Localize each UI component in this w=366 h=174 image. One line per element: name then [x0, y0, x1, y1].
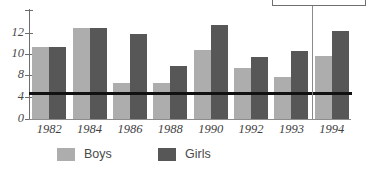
- legend-label-boys: Boys: [84, 148, 112, 161]
- legend-swatch-girls: [158, 148, 176, 161]
- y-axis-label-10: 10: [0, 47, 24, 60]
- bar-girls-1986: [130, 34, 147, 120]
- bar-girls-1994: [332, 31, 349, 120]
- x-axis-label-1993: 1993: [271, 122, 311, 138]
- bar-girls-1992: [251, 57, 268, 120]
- x-axis-label-1994: 1994: [312, 122, 352, 138]
- y-axis-label-0: 0: [0, 112, 24, 125]
- bar-boys-1990: [194, 50, 211, 120]
- x-axis-label-1988: 1988: [150, 122, 190, 138]
- legend-swatch-boys: [57, 148, 75, 161]
- y-axis-label-8: 8: [0, 68, 24, 81]
- bar-girls-1984: [90, 28, 107, 120]
- x-axis-label-1984: 1984: [69, 122, 109, 138]
- x-axis-label-1992: 1992: [231, 122, 271, 138]
- y-axis-label-4: 4: [0, 90, 24, 103]
- callout-box: [272, 0, 366, 6]
- callout-leader-line: [312, 2, 313, 119]
- x-axis-label-1990: 1990: [191, 122, 231, 138]
- legend-label-girls: Girls: [185, 148, 211, 161]
- legend-item-girls: Girls: [158, 145, 211, 163]
- legend-item-boys: Boys: [57, 145, 112, 163]
- x-axis-line: [29, 119, 351, 120]
- y-axis-label-text: 12: [12, 25, 25, 39]
- x-axis-label-1986: 1986: [110, 122, 150, 138]
- y-axis-label-text: 10: [12, 46, 25, 60]
- bar-boys-1982: [32, 47, 49, 120]
- reference-line: [29, 92, 352, 95]
- bar-boys-1988: [153, 83, 170, 120]
- bar-girls-1982: [49, 47, 66, 120]
- y-axis-label-text: 0: [18, 111, 24, 125]
- chart-legend: BoysGirls: [0, 145, 352, 169]
- y-axis-label-12: 12: [0, 26, 24, 39]
- bar-girls-1993: [291, 51, 308, 120]
- bar-boys-1993: [274, 77, 291, 120]
- bar-girls-1990: [211, 25, 228, 120]
- x-axis-label-1982: 1982: [29, 122, 69, 138]
- bar-boys-1986: [113, 83, 130, 120]
- bar-boys-1984: [73, 28, 90, 120]
- y-axis-label-text: 8: [18, 67, 24, 81]
- bar-boys-1994: [315, 56, 332, 120]
- y-axis-label-text: 4: [18, 89, 24, 103]
- bars-layer: [29, 8, 352, 120]
- x-axis-labels: 19821984198619881990199219931994: [29, 122, 352, 142]
